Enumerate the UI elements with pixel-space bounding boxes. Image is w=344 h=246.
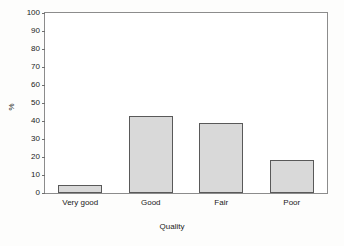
y-axis-tick-mark (42, 121, 45, 122)
y-axis-tick-label: 10 (31, 171, 42, 179)
y-axis-tick-label: 80 (31, 45, 42, 53)
y-axis-tick: 80 (31, 45, 45, 53)
y-axis-tick-mark (42, 31, 45, 32)
y-axis-tick-mark (42, 157, 45, 158)
y-axis-tick-label: 40 (31, 117, 42, 125)
y-axis-title: % (8, 103, 16, 110)
y-axis-tick-label: 100 (27, 9, 42, 17)
x-axis-tick-label: Good (141, 198, 161, 207)
y-axis-tick-mark (42, 13, 45, 14)
y-axis-tick-label: 90 (31, 27, 42, 35)
y-axis-tick-mark (42, 49, 45, 50)
y-axis-tick-mark (42, 175, 45, 176)
y-axis-tick-label: 30 (31, 135, 42, 143)
x-axis-tick-label: Very good (62, 198, 98, 207)
y-axis-tick-mark (42, 103, 45, 104)
y-axis-tick: 60 (31, 81, 45, 89)
y-axis-tick: 30 (31, 135, 45, 143)
plot-area: 0102030405060708090100 (44, 12, 328, 194)
bar (58, 185, 102, 193)
y-axis-tick-mark (42, 139, 45, 140)
y-axis-tick: 50 (31, 99, 45, 107)
y-axis-tick: 90 (31, 27, 45, 35)
y-axis-tick: 70 (31, 63, 45, 71)
bar (199, 123, 243, 193)
y-axis-tick-mark (42, 85, 45, 86)
x-axis-tick-label: Fair (214, 198, 228, 207)
y-axis-tick: 10 (31, 171, 45, 179)
y-axis-tick-label: 60 (31, 81, 42, 89)
y-axis-tick-mark (42, 193, 45, 194)
x-axis-title: Quality (0, 222, 344, 231)
bar-chart: 0102030405060708090100 % Quality Very go… (0, 0, 344, 246)
y-axis-tick: 40 (31, 117, 45, 125)
bar (270, 160, 314, 193)
y-axis-tick-label: 50 (31, 99, 42, 107)
y-axis-tick: 0 (36, 189, 45, 197)
bar (129, 116, 173, 193)
bars-layer (45, 13, 327, 193)
y-axis-tick: 100 (27, 9, 45, 17)
y-axis-tick-label: 70 (31, 63, 42, 71)
y-axis-tick-label: 20 (31, 153, 42, 161)
y-axis-tick-mark (42, 67, 45, 68)
y-axis-tick: 20 (31, 153, 45, 161)
x-axis-tick-label: Poor (283, 198, 300, 207)
